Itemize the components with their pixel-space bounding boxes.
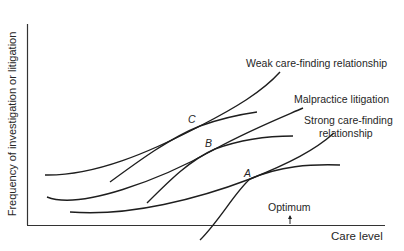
y-axis-label: Frequency of investigation or litigation: [6, 14, 18, 234]
optimum-arrow-head: [288, 215, 292, 219]
weak-care-finding-label: Weak care-finding relationship: [246, 57, 387, 69]
point-a-label: A: [244, 167, 251, 179]
litigation-line-c: [110, 112, 257, 182]
malpractice-litigation-curve: [47, 108, 303, 200]
optimum-label: Optimum: [268, 201, 311, 213]
strong-care-finding-label-line1: Strong care-finding: [304, 114, 393, 126]
point-b-label: B: [205, 137, 212, 149]
weak-care-finding-curve: [45, 72, 280, 175]
point-c-label: C: [188, 113, 196, 125]
strong-care-finding-label-line2: relationship: [319, 127, 373, 139]
malpractice-litigation-label: Malpractice litigation: [294, 93, 389, 105]
x-axis-label: Care level: [331, 230, 383, 242]
